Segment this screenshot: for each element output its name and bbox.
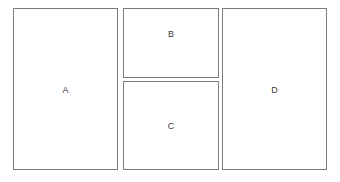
- region-rectangle-a: A: [13, 8, 118, 170]
- region-label-d: D: [271, 86, 278, 95]
- region-rectangle-c: C: [123, 81, 219, 170]
- region-label-c: C: [168, 122, 175, 131]
- region-rectangle-b: B: [123, 8, 219, 78]
- region-rectangle-d: D: [222, 8, 327, 170]
- region-label-a: A: [62, 86, 68, 95]
- region-label-b: B: [168, 30, 174, 39]
- diagram-canvas: A B C D: [0, 0, 340, 182]
